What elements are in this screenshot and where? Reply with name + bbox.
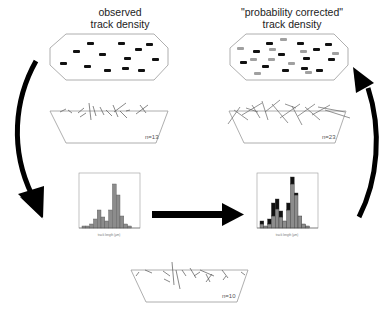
bottom-section-count: n=10: [222, 293, 236, 300]
curved-up-arrow-icon: [353, 67, 376, 217]
curved-down-arrow-icon: [17, 61, 44, 220]
diagram-canvas: track length (µm) t: [0, 0, 389, 311]
corrected-histogram: track length (µm): [257, 173, 318, 237]
right-histogram-xlabel: track length (µm): [276, 233, 299, 237]
left-section-count: n=13: [145, 134, 159, 141]
observed-histogram: track length (µm): [79, 173, 140, 237]
right-section-count: n=23: [322, 134, 336, 141]
right-arrow-icon: [152, 203, 244, 226]
corrected-density-plate: [230, 34, 348, 80]
left-histogram-xlabel: track length (µm): [98, 233, 121, 237]
observed-density-plate: [50, 34, 168, 80]
